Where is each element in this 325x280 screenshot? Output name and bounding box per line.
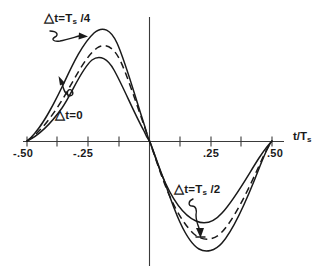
annotation-dt-zero: △t=0	[55, 107, 83, 122]
annotation-3-text-after: /2	[207, 183, 220, 195]
delta-symbol-3: △	[174, 182, 184, 196]
delta-symbol-2: △	[55, 108, 65, 122]
tick-label-neg-025: -.25	[73, 147, 93, 159]
annotation-dt-ts-over-2: △t=Ts /2	[174, 181, 220, 197]
tick-label-pos-050: .50	[267, 147, 283, 159]
annotation-1-text-after: /4	[77, 12, 90, 24]
figure-container: -.50 -.25 .25 .50 t/Ts △t=Ts /4 △t=0 △t=…	[0, 0, 325, 280]
tick-label-neg-050: -.50	[13, 147, 33, 159]
pointer-dt-ts-over-4	[50, 31, 88, 41]
x-axis-title-sub: s	[307, 135, 311, 144]
annotation-1-text-before: t=T	[54, 12, 72, 24]
x-axis-title-main: t/T	[293, 130, 307, 142]
plot-canvas	[0, 0, 325, 280]
delta-symbol-1: △	[44, 11, 54, 25]
tick-label-pos-025: .25	[203, 147, 219, 159]
annotation-dt-ts-over-4: △t=Ts /4	[44, 10, 90, 26]
annotation-3-text-before: t=T	[184, 183, 202, 195]
annotation-2-text-before: t=0	[65, 109, 83, 121]
x-axis-title: t/Ts	[293, 130, 312, 144]
